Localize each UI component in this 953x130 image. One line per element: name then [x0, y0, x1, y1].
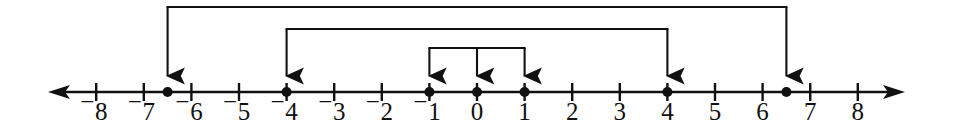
tick-label: 2 [566, 98, 579, 125]
tick-label: 5 [709, 98, 722, 125]
tick-label: 6 [190, 98, 203, 125]
tick-labels-group: 8−7−6−5−4−3−2−1−012345678 [80, 88, 864, 125]
point-0 [472, 87, 482, 97]
number-line-figure: 8−7−6−5−4−3−2−1−012345678 [0, 0, 953, 130]
point-6-5 [781, 87, 791, 97]
brackets-group [168, 7, 787, 76]
tick-label: 6 [756, 98, 769, 125]
tick-label: 8 [95, 98, 108, 125]
tick-label: 3 [333, 98, 346, 125]
negative-sign: − [175, 88, 189, 115]
tick-label: 4 [661, 98, 674, 125]
tick-label: 5 [238, 98, 251, 125]
tick-label: 7 [804, 98, 817, 125]
tick-label: 1 [428, 98, 441, 125]
point-neg-4 [282, 87, 292, 97]
tick-label: 2 [381, 98, 394, 125]
point-1 [520, 87, 530, 97]
tick-label: 1 [518, 98, 531, 125]
tick-label: 4 [285, 98, 298, 125]
negative-sign: − [223, 88, 237, 115]
tick-label: 3 [614, 98, 627, 125]
point-neg-1 [424, 87, 434, 97]
tick-label: 7 [143, 98, 156, 125]
point-4 [662, 87, 672, 97]
point-neg-6-5 [163, 87, 173, 97]
negative-sign: − [366, 88, 380, 115]
inner-bracket [429, 48, 524, 76]
number-line-canvas: 8−7−6−5−4−3−2−1−012345678 [0, 0, 953, 130]
negative-sign: − [318, 88, 332, 115]
negative-sign: − [80, 88, 94, 115]
negative-sign: − [128, 88, 142, 115]
tick-label: 8 [852, 98, 865, 125]
tick-label: 0 [471, 98, 484, 125]
